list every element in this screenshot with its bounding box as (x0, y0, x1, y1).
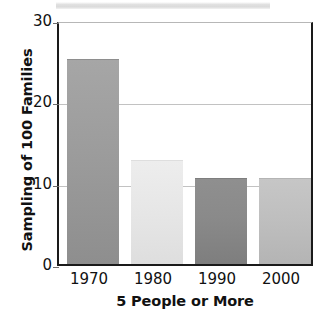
y-tick-mark-20 (53, 104, 59, 105)
y-tick-mark-10 (53, 186, 59, 187)
y-tick-label-10: 10 (33, 177, 52, 192)
bar-1980 (131, 160, 183, 264)
y-tick-label-30: 30 (33, 14, 52, 29)
x-axis-tick-labels: 1970198019902000 (57, 270, 313, 292)
scan-artifact-band (56, 2, 270, 9)
bar-2000 (259, 178, 311, 264)
x-tick-label-2000: 2000 (249, 270, 313, 288)
y-tick-label-20: 20 (33, 95, 52, 110)
x-tick-label-1990: 1990 (185, 270, 249, 288)
x-axis-title: 5 People or More (57, 293, 313, 309)
bar-chart-figure: Sampling of 100 Families 0102030 1970198… (0, 0, 326, 313)
bar-1990 (195, 178, 247, 264)
y-tick-label-0: 0 (42, 258, 52, 273)
bar-1970 (67, 59, 119, 264)
plot-area (57, 22, 313, 266)
y-tick-mark-30 (53, 23, 59, 24)
x-tick-label-1970: 1970 (57, 270, 121, 288)
x-tick-label-1980: 1980 (121, 270, 185, 288)
y-axis-tick-labels: 0102030 (16, 0, 52, 313)
y-tick-mark-0 (53, 267, 59, 268)
